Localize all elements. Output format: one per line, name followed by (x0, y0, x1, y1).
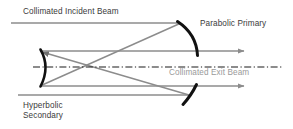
label-hyperbolic-secondary-line2: Secondary (23, 111, 63, 121)
label-collimated-incident-beam: Collimated Incident Beam (23, 7, 119, 17)
mirror-group (41, 22, 198, 105)
ray-bundle (11, 23, 244, 95)
converging-ray-lower (42, 52, 189, 95)
hyperbolic-secondary-mirror (41, 50, 46, 87)
label-hyperbolic-secondary-line1: Hyperbolic (23, 101, 63, 110)
label-collimated-exit-beam: Collimated Exit Beam (169, 68, 249, 78)
optical-diagram: Collimated Incident Beam Parabolic Prima… (0, 0, 293, 129)
label-hyperbolic-secondary: Hyperbolic Secondary (23, 101, 63, 121)
label-parabolic-primary: Parabolic Primary (200, 19, 266, 29)
converging-ray-upper (40, 23, 181, 86)
